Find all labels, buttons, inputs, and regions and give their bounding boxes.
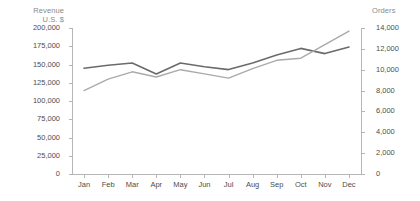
plot-area: [0, 0, 420, 201]
right-tick-mark: [362, 132, 365, 133]
x-tick-mark: [277, 175, 278, 178]
x-tick-mark: [253, 175, 254, 178]
x-tick-mark: [108, 175, 109, 178]
orders-line-series: [84, 31, 349, 91]
x-tick-mark: [349, 175, 350, 178]
x-tick-mark: [301, 175, 302, 178]
right-tick-mark: [362, 49, 365, 50]
left-tick-mark: [69, 101, 72, 102]
dual-axis-line-chart: Revenue U.S. $ Orders 025,00050,00075,00…: [0, 0, 420, 201]
right-tick-mark: [362, 111, 365, 112]
left-tick-mark: [69, 119, 72, 120]
revenue-line-series: [84, 47, 349, 74]
x-tick-mark: [204, 175, 205, 178]
right-tick-mark: [362, 28, 365, 29]
left-tick-mark: [69, 138, 72, 139]
right-tick-mark: [362, 174, 365, 175]
left-tick-mark: [69, 65, 72, 66]
left-tick-mark: [69, 46, 72, 47]
x-tick-mark: [180, 175, 181, 178]
right-tick-mark: [362, 153, 365, 154]
x-tick-mark: [229, 175, 230, 178]
left-tick-mark: [69, 83, 72, 84]
left-tick-mark: [69, 28, 72, 29]
left-tick-mark: [69, 156, 72, 157]
right-tick-mark: [362, 70, 365, 71]
x-tick-mark: [132, 175, 133, 178]
x-tick-mark: [84, 175, 85, 178]
left-tick-mark: [69, 174, 72, 175]
right-tick-mark: [362, 91, 365, 92]
x-tick-mark: [325, 175, 326, 178]
x-tick-mark: [156, 175, 157, 178]
